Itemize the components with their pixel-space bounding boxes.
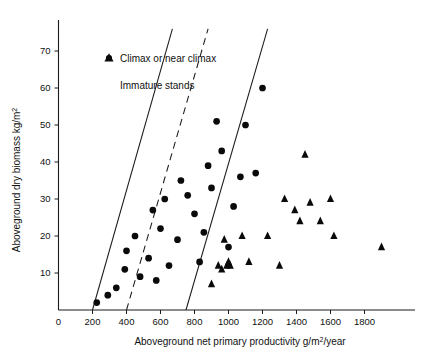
data-point-climax (205, 162, 212, 169)
y-axis-tick-label: 30 (40, 193, 51, 204)
data-point-immature (307, 198, 314, 206)
y-axis-tick-label: 70 (40, 45, 51, 56)
data-point-immature (245, 257, 252, 265)
data-point-climax (242, 122, 249, 129)
data-point-climax (123, 247, 130, 254)
data-point-climax (178, 177, 185, 184)
data-point-climax (161, 196, 168, 203)
data-point-climax (157, 225, 164, 232)
data-point-climax (145, 255, 152, 262)
data-point-climax (174, 236, 181, 243)
data-point-climax (150, 207, 157, 214)
x-axis-tick-label: 1800 (354, 316, 375, 327)
data-point-climax (252, 170, 259, 177)
plot-canvas: 020040060080010001200140016001800 102030… (0, 0, 442, 363)
data-point-climax (104, 292, 111, 299)
x-axis-ticks-group: 020040060080010001200140016001800 (56, 310, 375, 327)
data-point-climax (225, 244, 232, 251)
x-axis-tick-label: 400 (119, 316, 135, 327)
scatter-chart-figure: 020040060080010001200140016001800 102030… (0, 0, 442, 363)
y-axis-tick-label: 60 (40, 82, 51, 93)
legend-label-immature: Immature stands (120, 80, 194, 91)
data-point-climax (132, 233, 139, 240)
data-point-immature (327, 194, 334, 202)
y-axis-tick-label: 10 (40, 267, 51, 278)
immature-points-group (208, 150, 385, 287)
data-point-climax (191, 210, 198, 217)
data-point-climax (93, 299, 100, 306)
data-point-climax (166, 262, 173, 269)
data-point-immature (378, 243, 385, 251)
data-point-climax (153, 277, 160, 284)
y-axis-tick-label: 40 (40, 156, 51, 167)
data-point-immature (301, 150, 308, 158)
data-point-immature (281, 194, 288, 202)
data-point-immature (239, 231, 246, 239)
data-point-immature (208, 280, 215, 288)
data-point-climax (230, 203, 237, 210)
x-axis-title: Aboveground net primary productivity g/m… (134, 336, 346, 347)
data-point-climax (208, 185, 215, 192)
data-point-climax (259, 85, 266, 92)
data-point-immature (221, 235, 228, 243)
x-axis-tick-label: 1600 (320, 316, 341, 327)
data-point-climax (213, 118, 220, 125)
data-point-immature (330, 231, 337, 239)
data-point-immature (317, 217, 324, 225)
y-axis-ticks-group: 10203040506070 (40, 45, 59, 278)
legend-label-climax: Climax or near climax (120, 53, 216, 64)
data-point-climax (121, 266, 128, 273)
data-point-climax (137, 273, 144, 280)
x-axis-tick-label: 1400 (286, 316, 307, 327)
data-point-immature (276, 261, 283, 269)
x-axis-tick-label: 200 (85, 316, 101, 327)
data-point-climax (237, 173, 244, 180)
axes-group (59, 20, 416, 310)
y-axis-tick-label: 20 (40, 230, 51, 241)
data-point-climax (196, 259, 203, 266)
x-axis-tick-label: 1000 (218, 316, 239, 327)
data-point-climax (201, 229, 208, 236)
data-point-immature (264, 231, 271, 239)
x-axis-tick-label: 0 (56, 316, 61, 327)
x-axis-tick-label: 600 (153, 316, 169, 327)
y-axis-title: Aboveground dry biomass kg/m2 (11, 108, 22, 253)
x-axis-tick-label: 800 (187, 316, 203, 327)
y-axis-tick-label: 50 (40, 119, 51, 130)
data-point-climax (184, 192, 191, 199)
reference-lines-group (93, 29, 268, 310)
x-axis-tick-label: 1200 (252, 316, 273, 327)
climax-points-group (93, 85, 265, 306)
data-point-immature (291, 206, 298, 214)
legend-triangle-marker-icon (104, 53, 113, 61)
data-point-climax (113, 284, 120, 291)
data-point-climax (218, 148, 225, 155)
data-point-immature (296, 217, 303, 225)
reference-line-upper-solid (93, 29, 173, 310)
